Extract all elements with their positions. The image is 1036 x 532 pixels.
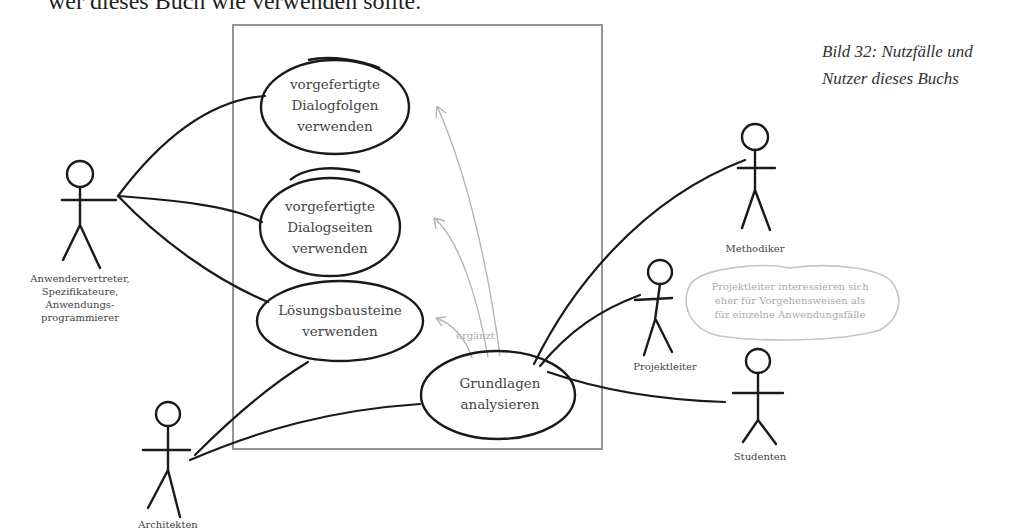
label-line: verwenden [265, 116, 405, 137]
actor-studenten-icon [733, 349, 783, 444]
label-line: verwenden [260, 321, 420, 342]
extend-relation-label: ergänzt [456, 330, 495, 341]
use-case-diagram [0, 0, 1036, 532]
label-line: Dialogseiten [260, 217, 400, 238]
use-case-grundlagen-label: Grundlagen analysieren [430, 373, 570, 415]
actor-architekten-label: Architekten [118, 518, 218, 531]
actor-methodiker-label: Methodiker [705, 242, 805, 255]
actor-studenten-label: Studenten [710, 450, 810, 463]
label-line: Spezifikateure, [10, 285, 150, 298]
label-line: vorgefertigte [265, 74, 405, 95]
use-case-dialogseiten-label: vorgefertigte Dialogseiten verwenden [260, 196, 400, 259]
note-line: Projektleiter interessieren sich [690, 280, 890, 294]
label-line: programmierer [10, 311, 150, 324]
actor-anwender-label: Anwendervertreter, Spezifikateure, Anwen… [10, 272, 150, 324]
note-line: eher für Vorgehensweisen als [690, 294, 890, 308]
actor-anwender-icon [62, 161, 116, 268]
label-line: Dialogfolgen [265, 95, 405, 116]
label-line: Lösungsbausteine [260, 300, 420, 321]
actor-projektleiter-label: Projektleiter [615, 360, 715, 373]
use-case-dialogfolgen-label: vorgefertigte Dialogfolgen verwenden [265, 74, 405, 137]
label-line: Grundlagen [430, 373, 570, 394]
actor-architekten-icon [143, 402, 190, 517]
note-text: Projektleiter interessieren sich eher fü… [690, 280, 890, 322]
use-case-loesungsbausteine-label: Lösungsbausteine verwenden [260, 300, 420, 342]
label-line: verwenden [260, 238, 400, 259]
actor-methodiker-icon [738, 124, 775, 230]
extend-arrows [434, 106, 500, 358]
label-line: Anwendervertreter, [10, 272, 150, 285]
note-line: für einzelne Anwendungsfälle [690, 308, 890, 322]
label-line: vorgefertigte [260, 196, 400, 217]
actor-projektleiter-icon [635, 260, 672, 355]
label-line: analysieren [430, 394, 570, 415]
label-line: Anwendungs- [10, 298, 150, 311]
